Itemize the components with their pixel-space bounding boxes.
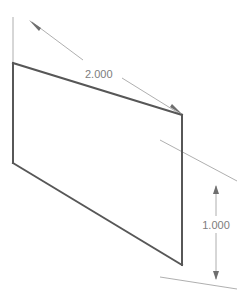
canvas-background xyxy=(0,0,242,306)
technical-drawing-canvas: 2.000 1.000 xyxy=(0,0,242,306)
height-dimension-label[interactable]: 1.000 xyxy=(202,219,230,231)
width-dimension-label[interactable]: 2.000 xyxy=(85,68,113,80)
